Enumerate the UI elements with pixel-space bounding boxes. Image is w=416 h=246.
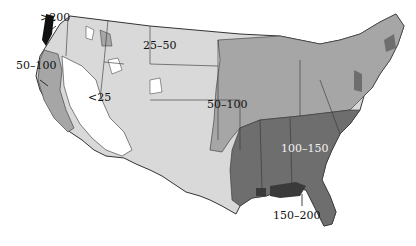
us-precipitation-map <box>0 0 416 246</box>
label-gt200: >200 <box>40 12 70 24</box>
label-lt25: <25 <box>88 92 111 104</box>
label-gulf-150-200: 150–200 <box>273 210 321 222</box>
label-southeast-100-150: 100–150 <box>281 143 329 155</box>
zone-lt25-patch <box>150 78 162 94</box>
label-central-50-100: 50–100 <box>207 99 248 111</box>
label-north-25-50: 25–50 <box>143 40 177 52</box>
label-pnw-50-100: 50–100 <box>16 60 57 72</box>
zone-150-200-small <box>256 188 266 196</box>
